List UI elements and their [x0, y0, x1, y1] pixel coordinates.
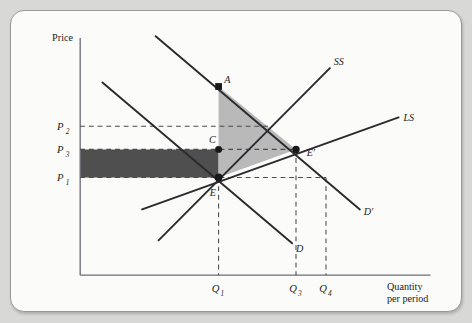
price-tick-p3-subscript: 3 — [65, 151, 70, 159]
point-e-marker — [215, 174, 223, 182]
price-tick-p1: P 1 — [56, 172, 69, 187]
price-tick-p3-base: P — [56, 144, 64, 155]
curve-label-ls: LS — [402, 112, 414, 123]
quantity-tick-q1-subscript: 1 — [221, 290, 225, 298]
point-eprime-marker — [292, 146, 299, 153]
point-label-c: C — [209, 134, 216, 145]
point-label-eprime: E' — [306, 147, 316, 158]
x-axis-title-line1: Quantity — [387, 281, 423, 292]
quantity-tick-q4: Q 4 — [319, 283, 332, 298]
curve-label-d: D — [295, 243, 304, 254]
x-axis-title-line2: per period — [387, 293, 428, 304]
price-tick-p1-subscript: 1 — [66, 179, 70, 187]
curve-label-ss: SS — [334, 56, 344, 67]
price-tick-p2-subscript: 2 — [66, 128, 70, 136]
point-c-marker — [215, 146, 222, 153]
quantity-tick-q3-base: Q — [289, 283, 297, 294]
price-tick-p3: P 3 — [56, 144, 70, 159]
point-a-marker — [215, 83, 222, 90]
price-tick-p2-base: P — [56, 121, 64, 132]
quantity-tick-q3: Q 3 — [289, 283, 302, 298]
point-label-e: E — [209, 187, 217, 198]
curve-dprime-new-demand — [156, 36, 360, 209]
price-tick-p2: P 2 — [56, 121, 70, 136]
price-tick-p1-base: P — [56, 172, 64, 183]
quantity-tick-q4-subscript: 4 — [328, 290, 332, 298]
quantity-tick-q1: Q 1 — [212, 283, 224, 298]
quantity-tick-q1-base: Q — [212, 283, 220, 294]
figure-card: SS LS D D' A C E E' P 2 P 3 P — [10, 10, 462, 312]
quantity-tick-q3-subscript: 3 — [297, 290, 302, 298]
quantity-tick-q4-base: Q — [319, 283, 327, 294]
supply-demand-chart: SS LS D D' A C E E' P 2 P 3 P — [11, 11, 461, 311]
y-axis-title: Price — [52, 32, 73, 43]
point-label-a: A — [223, 74, 231, 85]
curve-label-dprime: D' — [363, 206, 374, 217]
screenshot-root: SS LS D D' A C E E' P 2 P 3 P — [0, 0, 472, 323]
